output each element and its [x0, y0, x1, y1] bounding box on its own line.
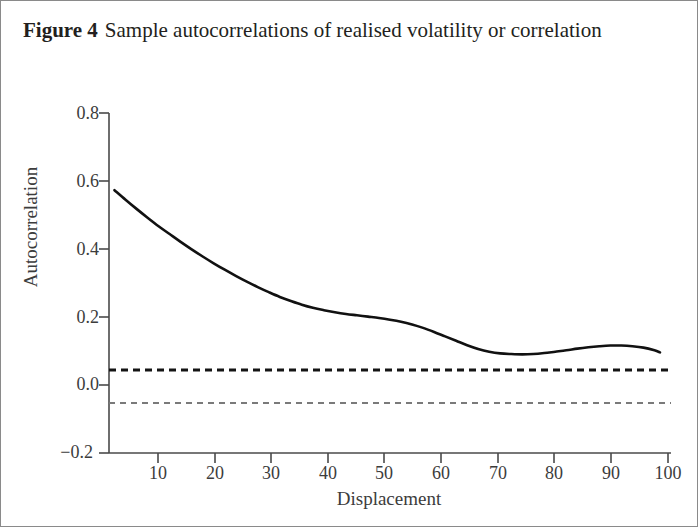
axis-lines — [109, 113, 671, 453]
figure-container: Figure 4Sample autocorrelations of reali… — [0, 0, 698, 527]
chart-plot-area: Autocorrelation Displacement 0.8 0.6 0.4… — [1, 1, 698, 527]
autocorrelation-curve — [115, 190, 660, 354]
y-axis-ticks — [99, 113, 109, 453]
chart-svg — [1, 1, 698, 527]
x-axis-ticks — [158, 453, 668, 463]
